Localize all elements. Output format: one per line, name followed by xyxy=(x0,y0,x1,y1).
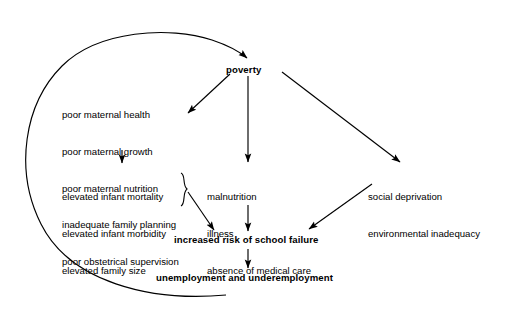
edge-environment-to-school-failure xyxy=(309,184,372,229)
node-school-failure: increased risk of school failure xyxy=(174,234,319,246)
health-deficit-line: malnutrition xyxy=(207,191,311,203)
brace-infant-outcomes xyxy=(181,173,187,206)
poverty-cycle-diagram: poverty poor maternal health poor matern… xyxy=(0,0,529,331)
edge-poverty-to-environment xyxy=(282,72,400,162)
node-infant-outcomes: elevated infant mortality elevated infan… xyxy=(62,167,166,301)
environment-line: social deprivation xyxy=(368,191,480,203)
environment-line: environmental inadequacy xyxy=(368,228,480,240)
infant-outcome-line: elevated infant mortality xyxy=(62,191,166,203)
edge-poverty-to-maternal-factors xyxy=(188,74,230,113)
node-unemployment: unemployment and underemployment xyxy=(156,272,333,284)
maternal-factor-line: poor maternal growth xyxy=(62,146,179,158)
infant-outcome-line: elevated infant morbidity xyxy=(62,228,166,240)
maternal-factor-line: poor maternal health xyxy=(62,109,179,121)
node-environment: social deprivation environmental inadequ… xyxy=(368,167,480,265)
infant-outcome-line: elevated family size xyxy=(62,265,166,277)
node-poverty: poverty xyxy=(226,64,261,76)
